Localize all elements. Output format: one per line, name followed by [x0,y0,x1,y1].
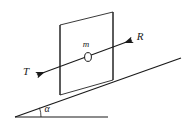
angle-arc [39,108,41,117]
inclined-plane-diagram: m T R α [0,0,190,124]
reaction-label: R [136,30,144,42]
physics-figure-canvas: m T R α [0,0,190,124]
tension-label: T [23,65,30,77]
mass-label: m [83,39,90,49]
mass-marker [85,53,92,62]
angle-label: α [44,103,50,114]
